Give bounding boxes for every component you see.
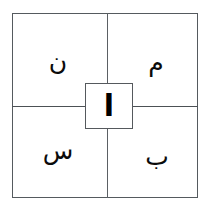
center-cell: ا <box>85 83 133 129</box>
center-glyph: ا <box>104 91 114 121</box>
quadrant-glyph-top-left: ن <box>49 49 67 74</box>
diagram-canvas: ن م س ب ا <box>0 0 212 210</box>
quadrant-glyph-bottom-left: س <box>43 138 74 163</box>
quadrant-glyph-bottom-right: ب <box>145 144 169 169</box>
quadrant-glyph-top-right: م <box>148 50 163 75</box>
